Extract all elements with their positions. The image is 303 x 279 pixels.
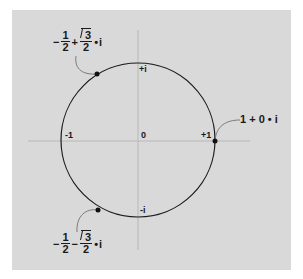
label-neg-i: -i: [140, 206, 146, 215]
expr-upper: − 1 2 + 3 2 • i: [52, 30, 102, 53]
sqrt-icon: 3: [81, 230, 91, 243]
expr-lower-imag: 3 2: [80, 232, 92, 255]
expr-upper-dot: •: [94, 36, 98, 48]
expr-upper-i: i: [99, 36, 102, 48]
label-neg-one: -1: [65, 131, 73, 140]
expr-lower-i: i: [99, 238, 102, 250]
expr-upper-real: 1 2: [61, 30, 69, 53]
expr-upper-sign: −: [53, 36, 59, 48]
expr-upper-imag: 3 2: [80, 30, 92, 53]
expr-lower: − 1 2 − 3 2 • i: [52, 232, 102, 255]
expr-right: 1 + 0 • i: [240, 113, 278, 125]
sqrt-icon: 3: [81, 28, 91, 41]
callout-right: [215, 120, 240, 141]
expr-lower-real: 1 2: [61, 232, 69, 255]
expr-lower-sign: −: [53, 238, 59, 250]
label-zero: 0: [141, 131, 146, 140]
callout-lower: [77, 210, 98, 232]
point-upper: [95, 72, 100, 77]
expr-upper-op: +: [72, 36, 78, 48]
point-lower: [96, 208, 101, 213]
expr-lower-op: −: [72, 238, 78, 250]
label-pos-one: +1: [201, 131, 211, 140]
expr-lower-dot: •: [94, 238, 98, 250]
label-pos-i: +i: [139, 65, 147, 74]
point-right: [213, 139, 218, 144]
unit-circle-diagram: [0, 0, 303, 279]
callout-upper: [76, 56, 97, 74]
